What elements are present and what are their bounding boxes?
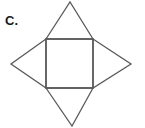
bottom-triangle bbox=[46, 88, 93, 126]
right-triangle bbox=[93, 39, 131, 88]
square-pyramid-net-diagram bbox=[0, 0, 145, 128]
central-square bbox=[46, 39, 93, 88]
top-triangle bbox=[46, 2, 93, 39]
figure-panel: C. bbox=[0, 0, 145, 128]
left-triangle bbox=[11, 39, 46, 88]
